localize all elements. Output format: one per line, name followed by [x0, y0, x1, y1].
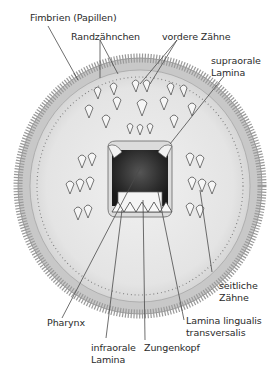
label-supraorale-lamina: supraorale Lamina — [211, 55, 261, 79]
label-zungenkopf: Zungenkopf — [144, 342, 200, 354]
label-lamina-lingualis: Lamina lingualis transversalis — [186, 315, 262, 339]
label-vordere-zaehne: vordere Zähne — [162, 31, 231, 43]
label-fimbrien: Fimbrien (Papillen) — [30, 12, 117, 24]
label-infraorale-lamina: infraorale Lamina — [91, 342, 136, 366]
label-pharynx: Pharynx — [47, 317, 85, 329]
label-randzaehnchen: Randzähnchen — [71, 31, 140, 43]
label-seitliche-zaehne: seitliche Zähne — [219, 280, 258, 304]
mouth-opening — [108, 141, 172, 217]
